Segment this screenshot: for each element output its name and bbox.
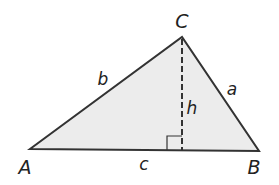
triangle-abc [30, 37, 259, 151]
height-label-h: h [187, 98, 198, 118]
side-label-b: b [98, 69, 109, 89]
side-label-c: c [139, 154, 149, 174]
vertex-label-a: A [17, 156, 32, 178]
side-label-a: a [227, 79, 237, 99]
vertex-label-b: B [247, 156, 260, 178]
vertex-label-c: C [175, 10, 189, 32]
triangle-diagram: C A B b a h c [0, 0, 279, 185]
